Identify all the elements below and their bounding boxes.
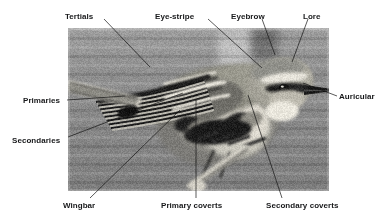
bird-photograph — [68, 28, 329, 191]
label-wingbar: Wingbar — [63, 201, 95, 211]
label-primary-coverts: Primary coverts — [161, 201, 222, 211]
label-primaries: Primaries — [23, 96, 60, 106]
label-auricular: Auricular — [339, 92, 375, 102]
figure-root: TertialsEye-stripeEyebrowLoreAuricularPr… — [0, 0, 386, 224]
label-tertials: Tertials — [65, 12, 93, 22]
label-lore: Lore — [303, 12, 321, 22]
label-secondary-coverts: Secondary coverts — [266, 201, 338, 211]
label-eyebrow: Eyebrow — [231, 12, 265, 22]
label-eye-stripe: Eye-stripe — [155, 12, 194, 22]
label-secondaries: Secondaries — [12, 136, 60, 146]
bird-photo-canvas — [68, 28, 329, 191]
